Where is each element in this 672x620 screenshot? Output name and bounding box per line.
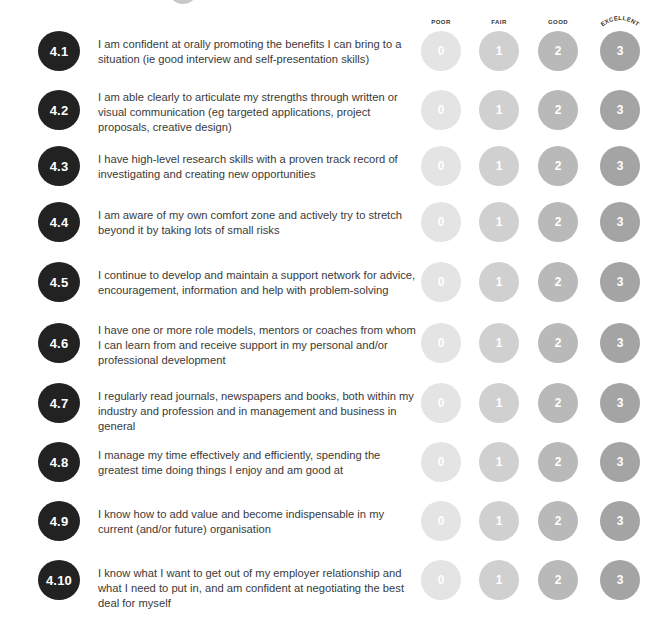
item-number-badge: 4.6: [38, 323, 80, 363]
item-number-badge: 4.10: [38, 560, 80, 600]
scale-label-poor: POOR: [421, 19, 461, 25]
decorative-circle-fragment: [168, 0, 198, 4]
assessment-row: 4.9 I know how to add value and become i…: [0, 501, 672, 557]
rating-option-2[interactable]: 2: [538, 262, 578, 302]
rating-option-3[interactable]: 3: [600, 90, 640, 130]
item-number-badge: 4.5: [38, 262, 80, 302]
rating-option-1[interactable]: 1: [479, 323, 519, 363]
rating-option-3[interactable]: 3: [600, 31, 640, 71]
rating-option-3[interactable]: 3: [600, 202, 640, 242]
statement-text: I know what I want to get out of my empl…: [98, 566, 418, 611]
statement-text: I have high-level research skills with a…: [98, 152, 418, 182]
rating-option-3[interactable]: 3: [600, 442, 640, 482]
item-number-badge: 4.8: [38, 442, 80, 482]
rating-option-0[interactable]: 0: [421, 323, 461, 363]
assessment-row: 4.3 I have high-level research skills wi…: [0, 146, 672, 202]
item-number-badge: 4.4: [38, 202, 80, 242]
statement-text: I am confident at orally promoting the b…: [98, 37, 418, 67]
assessment-row: 4.1 I am confident at orally promoting t…: [0, 31, 672, 87]
rating-option-0[interactable]: 0: [421, 442, 461, 482]
statement-text: I regularly read journals, newspapers an…: [98, 389, 418, 434]
rating-option-2[interactable]: 2: [538, 383, 578, 423]
rating-option-2[interactable]: 2: [538, 90, 578, 130]
rating-option-1[interactable]: 1: [479, 31, 519, 71]
statement-text: I am able clearly to articulate my stren…: [98, 90, 418, 135]
item-number-badge: 4.2: [38, 90, 80, 130]
rating-option-0[interactable]: 0: [421, 560, 461, 600]
rating-option-0[interactable]: 0: [421, 262, 461, 302]
assessment-row: 4.7 I regularly read journals, newspaper…: [0, 383, 672, 439]
statement-text: I manage my time effectively and efficie…: [98, 448, 418, 478]
rating-option-3[interactable]: 3: [600, 501, 640, 541]
assessment-row: 4.5 I continue to develop and maintain a…: [0, 262, 672, 318]
rating-option-1[interactable]: 1: [479, 90, 519, 130]
assessment-row: 4.4 I am aware of my own comfort zone an…: [0, 202, 672, 258]
item-number-badge: 4.9: [38, 501, 80, 541]
rating-option-0[interactable]: 0: [421, 501, 461, 541]
rating-option-2[interactable]: 2: [538, 501, 578, 541]
rating-option-2[interactable]: 2: [538, 560, 578, 600]
rating-option-0[interactable]: 0: [421, 146, 461, 186]
rating-option-2[interactable]: 2: [538, 146, 578, 186]
rating-option-0[interactable]: 0: [421, 31, 461, 71]
scale-label-fair: FAIR: [479, 19, 519, 25]
item-number-badge: 4.3: [38, 146, 80, 186]
rating-option-0[interactable]: 0: [421, 383, 461, 423]
rating-option-3[interactable]: 3: [600, 323, 640, 363]
statement-text: I know how to add value and become indis…: [98, 507, 418, 537]
assessment-row: 4.10 I know what I want to get out of my…: [0, 560, 672, 616]
scale-label-good: GOOD: [538, 19, 578, 25]
assessment-row: 4.8 I manage my time effectively and eff…: [0, 442, 672, 498]
rating-option-3[interactable]: 3: [600, 383, 640, 423]
rating-option-1[interactable]: 1: [479, 202, 519, 242]
rating-option-3[interactable]: 3: [600, 560, 640, 600]
rating-option-0[interactable]: 0: [421, 202, 461, 242]
scale-label-excellent: EXCELLENT: [600, 14, 640, 28]
rating-option-2[interactable]: 2: [538, 442, 578, 482]
rating-option-2[interactable]: 2: [538, 323, 578, 363]
rating-option-1[interactable]: 1: [479, 262, 519, 302]
rating-option-2[interactable]: 2: [538, 202, 578, 242]
rating-option-1[interactable]: 1: [479, 383, 519, 423]
rating-option-2[interactable]: 2: [538, 31, 578, 71]
item-number-badge: 4.1: [38, 31, 80, 71]
statement-text: I have one or more role models, mentors …: [98, 323, 418, 368]
assessment-row: 4.2 I am able clearly to articulate my s…: [0, 90, 672, 146]
rating-option-1[interactable]: 1: [479, 146, 519, 186]
statement-text: I am aware of my own comfort zone and ac…: [98, 208, 418, 238]
rating-option-1[interactable]: 1: [479, 501, 519, 541]
assessment-row: 4.6 I have one or more role models, ment…: [0, 323, 672, 379]
item-number-badge: 4.7: [38, 383, 80, 423]
rating-option-0[interactable]: 0: [421, 90, 461, 130]
rating-option-1[interactable]: 1: [479, 560, 519, 600]
rating-option-3[interactable]: 3: [600, 146, 640, 186]
scale-label-excellent-text: EXCELLENT: [600, 15, 640, 28]
statement-text: I continue to develop and maintain a sup…: [98, 268, 418, 298]
rating-option-1[interactable]: 1: [479, 442, 519, 482]
rating-option-3[interactable]: 3: [600, 262, 640, 302]
svg-text:EXCELLENT: EXCELLENT: [600, 15, 640, 28]
